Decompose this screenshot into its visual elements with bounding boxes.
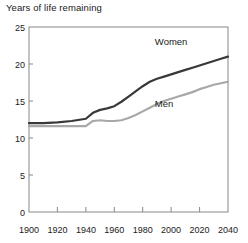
y-axis-tick-labels: 25 20 15 10 5 0: [15, 23, 25, 218]
y-axis-ticks: [29, 64, 33, 175]
series-label-women: Women: [155, 36, 188, 47]
x-tick-label: 1940: [76, 225, 96, 235]
x-tick-label: 1960: [104, 225, 124, 235]
plot-frame: [29, 27, 228, 212]
x-tick-label: 1980: [133, 225, 153, 235]
y-tick-label: 10: [15, 134, 25, 144]
x-tick-label: 2000: [161, 225, 181, 235]
y-tick-label: 25: [15, 23, 25, 33]
y-tick-label: 0: [20, 208, 25, 218]
series-label-men: Men: [155, 98, 173, 109]
x-tick-label: 2020: [190, 225, 210, 235]
x-tick-label: 2040: [218, 225, 238, 235]
chart-container: Years of life remaining 25 20 15 10 5 0 …: [0, 0, 248, 243]
series-line-men: [29, 82, 228, 126]
x-tick-label: 1900: [19, 225, 39, 235]
y-tick-label: 5: [20, 171, 25, 181]
x-tick-label: 1920: [47, 225, 67, 235]
y-tick-label: 20: [15, 60, 25, 70]
y-tick-label: 15: [15, 97, 25, 107]
x-axis-ticks: [57, 207, 199, 212]
chart-plot: 25 20 15 10 5 0 1900 1920 1940 1960 1980…: [0, 0, 248, 243]
x-axis-tick-labels: 1900 1920 1940 1960 1980 2000 2020 2040: [19, 225, 238, 235]
